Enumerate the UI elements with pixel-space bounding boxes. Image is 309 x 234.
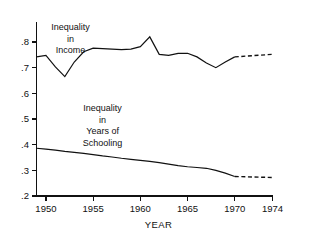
x-tick-label: 1965: [177, 203, 198, 214]
y-tick-label: .3: [21, 165, 29, 176]
series-group: [37, 37, 273, 178]
y-tick-label: .2: [21, 190, 29, 201]
y-tick-label: .5: [21, 113, 29, 124]
schooling-series-label-line: Inequality: [83, 103, 122, 113]
income-series-label-line: Inequality: [51, 22, 90, 32]
x-tick-label: 1950: [35, 203, 56, 214]
x-tick-label: 1974: [262, 203, 283, 214]
schooling-series-label: InequalityinYears ofSchooling: [83, 103, 123, 148]
schooling-series-label-line: Years of: [86, 126, 119, 136]
x-tick-label: 1960: [130, 203, 151, 214]
income-series-label: InequalityinIncome: [51, 22, 90, 55]
schooling-series-label-line: in: [99, 115, 106, 125]
income-series-label-line: in: [67, 34, 74, 44]
axis-title-group: YEAR: [145, 219, 172, 230]
x-tick-label: 1955: [83, 203, 104, 214]
tick-labels-group: .2.3.4.5.6.7.8195019551960196519701974: [21, 36, 283, 213]
series-line-solid-schooling: [37, 148, 235, 176]
y-tick-label: .4: [21, 139, 29, 150]
x-axis-title: YEAR: [145, 219, 172, 230]
annotations-group: InequalityinIncomeInequalityinYears ofSc…: [51, 22, 122, 147]
series-line-projected-income: [235, 54, 273, 57]
series-line-projected-schooling: [235, 176, 273, 177]
chart-plot-area: .2.3.4.5.6.7.8195019551960196519701974 I…: [0, 0, 309, 234]
schooling-series-label-line: Schooling: [83, 138, 123, 148]
y-tick-label: .8: [21, 36, 29, 47]
y-tick-label: .6: [21, 88, 29, 99]
income-series-label-line: Income: [56, 45, 86, 55]
inequality-line-chart-figure: .2.3.4.5.6.7.8195019551960196519701974 I…: [0, 0, 309, 234]
y-tick-label: .7: [21, 62, 29, 73]
x-tick-label: 1970: [224, 203, 245, 214]
